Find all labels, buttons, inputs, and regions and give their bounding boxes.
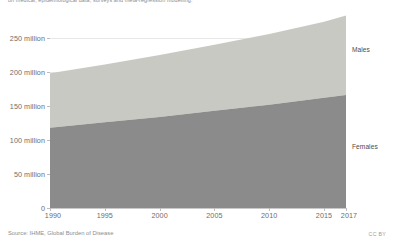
series-label-females: Females (352, 143, 378, 150)
chart-figure: on medical, epidemiological data, survey… (0, 0, 394, 246)
xtick-label-1990: 1990 (45, 211, 61, 220)
plot-area (50, 14, 346, 208)
xtick-label-2017: 2017 (341, 211, 357, 220)
xtick-label-2005: 2005 (206, 211, 222, 220)
ytick-label-150: 150 million (10, 102, 45, 111)
xtick-label-2010: 2010 (261, 211, 277, 220)
figure-subtitle: on medical, epidemiological data, survey… (8, 0, 193, 3)
ytick-label-50: 50 million (14, 170, 45, 179)
axis-baseline (50, 208, 346, 209)
area-chart-svg (50, 14, 346, 208)
xtick-label-2000: 2000 (151, 211, 167, 220)
ytick-label-200: 200 million (10, 68, 45, 77)
xtick-label-2015: 2015 (316, 211, 332, 220)
xtick-label-1995: 1995 (97, 211, 113, 220)
source-note: Source: IHME, Global Burden of Disease (8, 230, 113, 236)
ytick-label-100: 100 million (10, 136, 45, 145)
ytick-label-250: 250 million (10, 34, 45, 43)
license-note: CC BY (369, 231, 386, 237)
series-label-males: Males (352, 46, 370, 53)
